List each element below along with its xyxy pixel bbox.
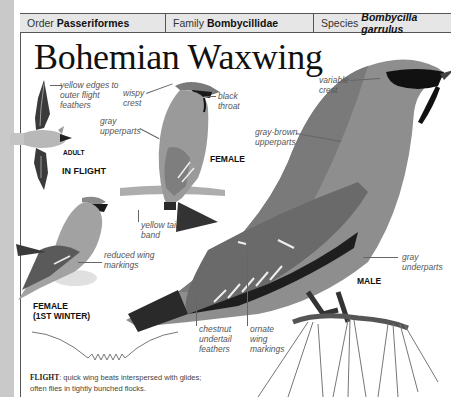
taxonomy-species: Species Bombycilla garrulus: [313, 14, 451, 32]
order-value: Passeriformes: [57, 17, 129, 29]
caption-male: MALE: [357, 276, 381, 286]
leader-line: [196, 300, 197, 326]
leader-line: [363, 257, 398, 258]
caption-in-flight: IN FLIGHT: [62, 166, 106, 176]
annotation-yellow-edges: yellow edges to outer flight feathers: [60, 80, 119, 110]
annotation-gray-brown-upperparts: gray-brown upperparts: [255, 127, 298, 147]
order-label: Order: [27, 17, 54, 29]
taxonomy-order: Order Passeriformes: [20, 14, 165, 32]
annotation-variable-crest: variable crest: [319, 75, 349, 95]
annotation-chestnut-undertail: chestnut undertail feathers: [199, 324, 232, 354]
family-value: Bombycillidae: [207, 17, 278, 29]
species-value: Bombycilla garrulus: [361, 11, 451, 35]
female-first-winter-bird-illustration: [10, 190, 115, 300]
taxonomy-family: Family Bombycillidae: [165, 14, 313, 32]
caption-female-first-winter: FEMALE (1ST WINTER): [33, 301, 90, 321]
leader-line: [247, 252, 248, 326]
annotation-ornate-wing-markings: ornate wing markings: [250, 324, 284, 354]
caption-adult: ADULT: [63, 148, 85, 158]
flight-label: FLIGHT: [30, 373, 59, 382]
flight-description: FLIGHT: quick wing beats interspersed wi…: [30, 372, 230, 394]
annotation-gray-underparts: gray underparts: [402, 252, 443, 272]
family-label: Family: [173, 17, 204, 29]
flight-pattern-diagram: [30, 330, 180, 365]
species-label: Species: [321, 17, 358, 29]
taxonomy-bar: Order Passeriformes Family Bombycillidae…: [20, 13, 451, 33]
leader-line: [78, 262, 102, 263]
